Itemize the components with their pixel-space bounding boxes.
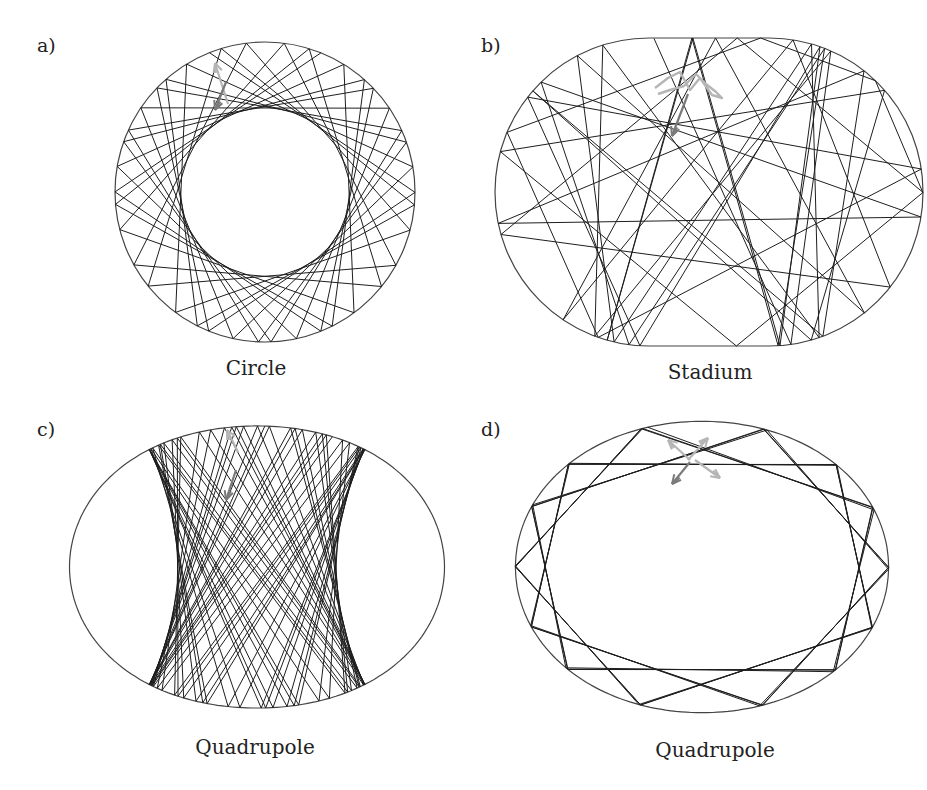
initial-arrow-light-head bbox=[215, 63, 216, 73]
panel-label-a: a) bbox=[37, 34, 56, 56]
caption-quadrupole-c: Quadrupole bbox=[155, 735, 355, 759]
panel-circle-billiard bbox=[115, 42, 415, 342]
panel-label-b: b) bbox=[481, 34, 501, 56]
stadium-boundary bbox=[495, 38, 923, 346]
caption-stadium: Stadium bbox=[610, 360, 810, 384]
panel-quadrupole-chaotic-billiard bbox=[515, 421, 888, 712]
billiard-figure bbox=[0, 0, 927, 790]
panel-label-d: d) bbox=[481, 418, 501, 440]
panel-label-c: c) bbox=[37, 418, 55, 440]
quadrupole-regular-trajectory bbox=[149, 426, 364, 708]
panel-quadrupole-regular-billiard bbox=[70, 426, 445, 708]
circle-trajectory bbox=[115, 43, 415, 342]
stadium-trajectory bbox=[498, 38, 923, 346]
caption-quadrupole-d: Quadrupole bbox=[615, 738, 815, 762]
panel-stadium-billiard bbox=[495, 38, 923, 346]
initial-arrows-light bbox=[655, 72, 722, 98]
caption-circle: Circle bbox=[156, 356, 356, 380]
quadrupole-chaotic-trajectory bbox=[515, 427, 888, 706]
